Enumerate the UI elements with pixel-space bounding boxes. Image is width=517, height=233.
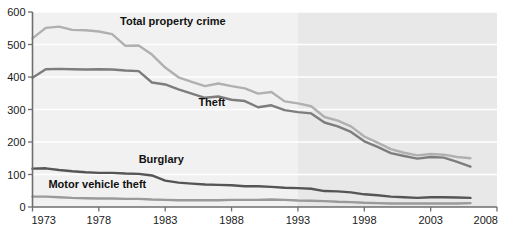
y-tick-label: 100 <box>7 169 25 181</box>
x-tick-label: 1983 <box>153 214 177 226</box>
y-tick-label: 200 <box>7 136 25 148</box>
x-tick-label: 1988 <box>219 214 243 226</box>
x-tick-label: 1978 <box>87 214 111 226</box>
y-tick-label: 600 <box>7 6 25 18</box>
x-tick-label: 2008 <box>474 214 498 226</box>
x-tick-label: 1998 <box>352 214 376 226</box>
x-tick-label: 2003 <box>418 214 442 226</box>
y-tick-label: 500 <box>7 39 25 51</box>
y-tick-label: 0 <box>19 201 25 213</box>
crime-rate-line-chart: 0100200300400500600 19731978198319881993… <box>0 0 517 233</box>
y-axis-tick-labels: 0100200300400500600 <box>7 6 32 213</box>
x-tick-label: 1993 <box>286 214 310 226</box>
chart-canvas: 0100200300400500600 19731978198319881993… <box>0 0 517 233</box>
series-label-theft: Theft <box>198 96 225 108</box>
series-label-burglary: Burglary <box>139 153 185 165</box>
series-label-total-property-crime: Total property crime <box>120 15 226 27</box>
series-label-motor-vehicle-theft: Motor vehicle theft <box>48 178 146 190</box>
y-tick-label: 400 <box>7 71 25 83</box>
x-tick-label: 1973 <box>32 214 56 226</box>
y-tick-label: 300 <box>7 104 25 116</box>
x-axis-tick-labels: 19731978198319881993199820032008 <box>32 207 499 226</box>
